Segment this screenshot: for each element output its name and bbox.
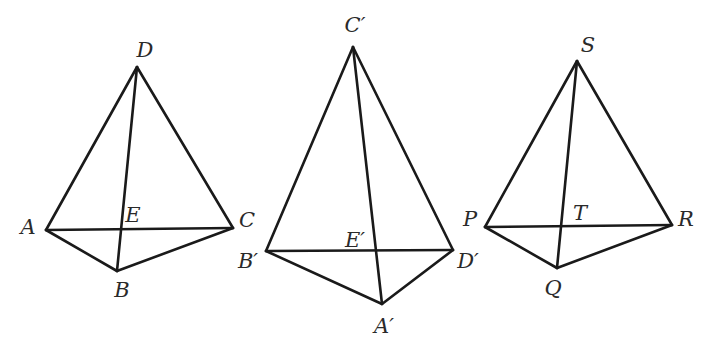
vertex-label-s: S: [581, 33, 595, 57]
edge-p-r: [485, 225, 672, 227]
vertex-label-c: C: [239, 208, 255, 232]
vertex-label-a: A: [18, 215, 35, 239]
vertex-label-d-prime: D′: [456, 249, 479, 273]
pyramid-a-prime-b-prime-c-prime-d-prime: C′B′A′D′E′: [237, 13, 479, 338]
edge-c-prime-d-prime: [353, 47, 453, 250]
vertex-label-b-prime: B′: [237, 249, 258, 273]
edge-a-b: [46, 230, 117, 271]
cropped-top-text: [0, 0, 711, 4]
edge-b-c: [117, 228, 233, 271]
vertex-label-d: D: [136, 38, 154, 62]
edge-s-r: [577, 61, 672, 225]
vertex-label-r: R: [677, 207, 694, 231]
edge-c-prime-b-prime: [266, 47, 353, 251]
pyramid-pqrs: SPQRT: [462, 33, 694, 300]
edge-q-r: [557, 225, 672, 268]
vertex-label-c-prime: C′: [345, 13, 366, 37]
vertex-label-e-prime: E′: [344, 228, 365, 252]
edge-a-prime-d-prime: [382, 250, 453, 304]
tetrahedra-diagram: DABCE C′B′A′D′E′ SPQRT: [0, 0, 711, 351]
pyramid-abcd: DABCE: [18, 38, 255, 302]
edge-d-c: [137, 67, 233, 228]
edge-p-q: [485, 227, 557, 268]
edge-b-prime-a-prime: [266, 251, 382, 304]
vertex-label-a-prime: A′: [372, 314, 394, 338]
edge-c-prime-a-prime: [353, 47, 382, 304]
vertex-label-b: B: [113, 278, 129, 302]
edge-a-c: [46, 228, 233, 230]
vertex-label-q: Q: [544, 276, 561, 300]
vertex-label-p: P: [462, 207, 478, 231]
vertex-label-t: T: [573, 201, 589, 225]
vertex-label-e: E: [124, 203, 140, 227]
